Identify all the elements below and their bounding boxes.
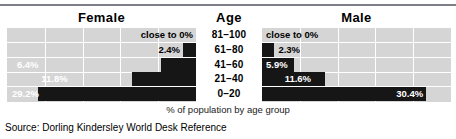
bar-value-label: 5.9% — [266, 58, 288, 72]
table-row: 11.8% — [7, 72, 196, 86]
table-row: 2.3% — [262, 43, 451, 57]
male-chart-panel: close to 0%2.3%5.9%11.6%30.4% — [262, 28, 451, 102]
bar-value-label: close to 0% — [141, 28, 193, 42]
bar-value-label: 11.8% — [41, 72, 67, 86]
table-row: 29.2% — [7, 87, 196, 101]
bar-value-label: 2.4% — [158, 43, 180, 57]
table-row: 6.4% — [7, 58, 196, 72]
bar-value-label: 11.6% — [285, 72, 311, 86]
bar-left — [183, 43, 196, 57]
header-male: Male — [262, 9, 451, 26]
table-row: 5.9% — [262, 58, 451, 72]
top-divider-rule — [0, 4, 456, 6]
bar-left — [161, 58, 196, 72]
population-pyramid-figure: Female Age Male close to 0%2.4%6.4%11.8%… — [0, 0, 456, 139]
age-group-label: 81–100 — [196, 28, 262, 42]
age-group-label: 0–20 — [196, 87, 262, 101]
bar-value-label: 29.2% — [12, 87, 39, 101]
age-group-label: 41–60 — [196, 58, 262, 72]
table-row: 30.4% — [262, 87, 451, 101]
bar-left — [132, 72, 196, 86]
age-group-label: 61–80 — [196, 43, 262, 57]
female-bar-rows: close to 0%2.4%6.4%11.8%29.2% — [7, 28, 196, 102]
table-row: 2.4% — [7, 43, 196, 57]
bar-left — [38, 87, 196, 101]
bar-value-label: close to 0% — [266, 28, 318, 42]
female-chart-panel: close to 0%2.4%6.4%11.8%29.2% — [7, 28, 196, 102]
header-age: Age — [196, 9, 262, 26]
header-female: Female — [7, 9, 196, 26]
table-row: close to 0% — [262, 28, 451, 42]
bar-value-label: 6.4% — [17, 58, 39, 72]
bar-value-label: 2.3% — [278, 43, 300, 57]
table-row: close to 0% — [7, 28, 196, 42]
male-bar-rows: close to 0%2.3%5.9%11.6%30.4% — [262, 28, 451, 102]
bar-value-label: 30.4% — [396, 87, 423, 101]
age-group-label: 21–40 — [196, 72, 262, 86]
bar-right — [262, 43, 274, 57]
source-note: Source: Dorling Kindersley World Desk Re… — [5, 122, 227, 133]
column-headers: Female Age Male — [0, 9, 456, 26]
table-row: 11.6% — [262, 72, 451, 86]
axis-caption: % of population by age group — [0, 104, 456, 115]
age-axis-labels: 81–10061–8041–6021–400–20 — [196, 28, 262, 102]
